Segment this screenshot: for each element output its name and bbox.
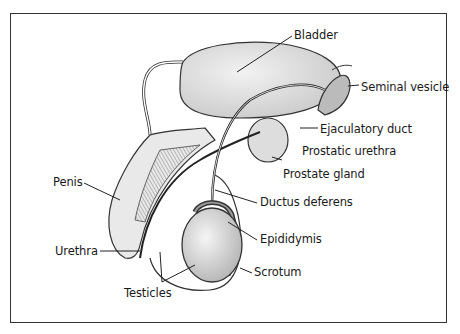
- label-urethra: Urethra: [55, 244, 98, 258]
- anatomy-illustration: [0, 0, 460, 334]
- label-prostate-gland: Prostate gland: [283, 167, 365, 181]
- label-penis: Penis: [53, 175, 83, 189]
- label-epididymis: Epididymis: [260, 232, 322, 246]
- label-bladder: Bladder: [294, 28, 338, 42]
- label-ductus-deferens: Ductus deferens: [260, 195, 353, 209]
- prostate-gland: [248, 118, 288, 162]
- label-ejaculatory-duct: Ejaculatory duct: [320, 122, 412, 136]
- bladder: [180, 42, 341, 118]
- label-seminal-vesicle: Seminal vesicle: [361, 80, 449, 94]
- label-testicles: Testicles: [124, 286, 172, 300]
- label-prostatic-urethra: Prostatic urethra: [302, 144, 396, 158]
- testis: [182, 208, 242, 282]
- ureter: [144, 62, 183, 135]
- label-scrotum: Scrotum: [254, 265, 301, 279]
